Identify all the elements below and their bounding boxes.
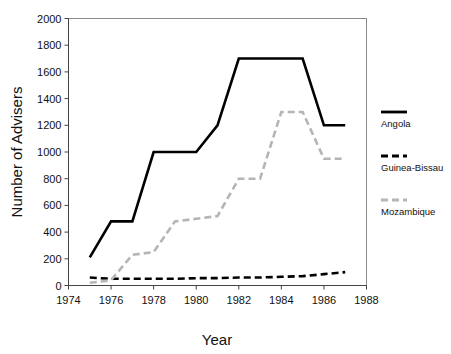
x-tick-label: 1986 bbox=[312, 294, 336, 306]
y-tick-label: 1000 bbox=[37, 146, 61, 158]
x-axis-ticks: 19741976197819801982198419861988 bbox=[56, 286, 378, 306]
series-line-guinea-bissau bbox=[90, 272, 345, 279]
chart-canvas: 0200400600800100012001400160018002000 19… bbox=[0, 0, 451, 354]
legend-label-guinea-bissau: Guinea-Bissau bbox=[381, 162, 443, 173]
legend-label-mozambique: Mozambique bbox=[381, 206, 435, 217]
x-axis-title: Year bbox=[202, 331, 232, 348]
x-tick-label: 1988 bbox=[354, 294, 378, 306]
x-tick-label: 1982 bbox=[227, 294, 251, 306]
line-chart: 0200400600800100012001400160018002000 19… bbox=[0, 0, 451, 354]
x-tick-label: 1976 bbox=[99, 294, 123, 306]
legend-label-angola: Angola bbox=[381, 118, 411, 129]
x-tick-label: 1978 bbox=[141, 294, 165, 306]
y-tick-label: 400 bbox=[43, 226, 61, 238]
y-tick-label: 600 bbox=[43, 199, 61, 211]
y-tick-label: 1800 bbox=[37, 39, 61, 51]
series-line-mozambique bbox=[90, 112, 345, 283]
x-tick-label: 1974 bbox=[56, 294, 80, 306]
y-axis-ticks: 0200400600800100012001400160018002000 bbox=[37, 13, 68, 292]
x-tick-label: 1980 bbox=[184, 294, 208, 306]
y-tick-label: 0 bbox=[55, 280, 61, 292]
y-tick-label: 200 bbox=[43, 253, 61, 265]
y-tick-label: 1400 bbox=[37, 93, 61, 105]
y-tick-label: 1200 bbox=[37, 119, 61, 131]
y-tick-label: 2000 bbox=[37, 13, 61, 25]
series-line-angola bbox=[90, 59, 345, 258]
y-axis-title: Number of Advisers bbox=[8, 87, 25, 218]
data-series-group bbox=[90, 59, 345, 283]
y-tick-label: 1600 bbox=[37, 66, 61, 78]
y-tick-label: 800 bbox=[43, 173, 61, 185]
chart-legend: AngolaGuinea-BissauMozambique bbox=[381, 112, 443, 217]
x-tick-label: 1984 bbox=[269, 294, 293, 306]
